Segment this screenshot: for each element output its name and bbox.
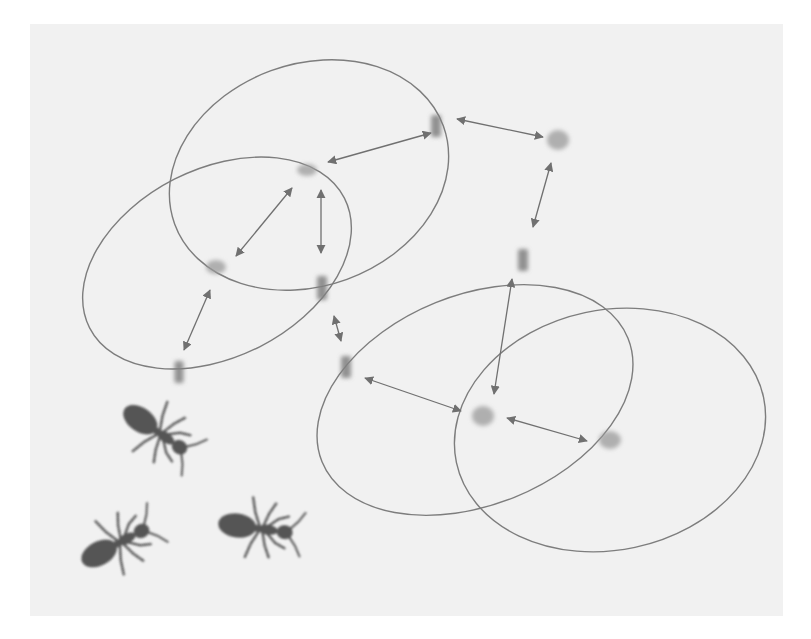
node-n7 <box>175 361 184 383</box>
node-n10 <box>599 431 621 449</box>
node-n3 <box>547 130 569 150</box>
node-n9 <box>472 406 494 426</box>
ant-network-diagram <box>0 0 811 639</box>
node-n2 <box>431 115 441 137</box>
node-n6 <box>518 249 528 271</box>
node-n5 <box>317 276 327 300</box>
node-n8 <box>341 356 351 378</box>
diagram-canvas <box>0 0 811 639</box>
node-n1 <box>297 164 317 176</box>
node-n4 <box>206 260 226 274</box>
